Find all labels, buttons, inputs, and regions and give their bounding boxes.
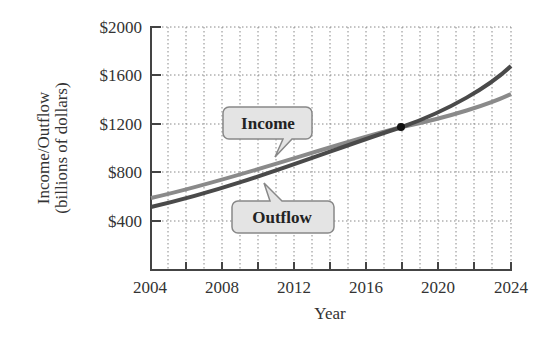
y-tick: $2000 bbox=[100, 18, 143, 37]
outflow-callout: Outflow bbox=[232, 183, 334, 233]
svg-text:Income: Income bbox=[241, 114, 295, 133]
y-tick: $800 bbox=[108, 163, 142, 182]
y-tick: $1200 bbox=[100, 115, 143, 134]
y-tick-labels: $2000 $1600 $1200 $800 $400 bbox=[100, 18, 143, 231]
x-tick: 2016 bbox=[349, 278, 383, 297]
x-tick: 2024 bbox=[494, 278, 529, 297]
x-tick-labels: 2004 2008 2012 2016 2020 2024 bbox=[133, 278, 529, 297]
x-axis-label: Year bbox=[314, 304, 346, 323]
chart: $2000 $1600 $1200 $800 $400 2004 2008 20… bbox=[0, 0, 541, 339]
income-callout: Income bbox=[223, 107, 312, 157]
svg-text:(billions of dollars): (billions of dollars) bbox=[52, 82, 71, 213]
x-tick: 2008 bbox=[205, 278, 239, 297]
intersection-point bbox=[397, 123, 405, 131]
svg-text:Outflow: Outflow bbox=[252, 208, 312, 227]
x-tick: 2012 bbox=[277, 278, 311, 297]
y-tick: $1600 bbox=[100, 66, 143, 85]
series-income-line bbox=[151, 94, 511, 198]
x-tick: 2004 bbox=[133, 278, 168, 297]
svg-text:Income/Outflow: Income/Outflow bbox=[34, 91, 53, 204]
y-tick: $400 bbox=[108, 212, 142, 231]
y-axis-label: Income/Outflow (billions of dollars) bbox=[34, 82, 71, 213]
x-tick: 2020 bbox=[421, 278, 455, 297]
